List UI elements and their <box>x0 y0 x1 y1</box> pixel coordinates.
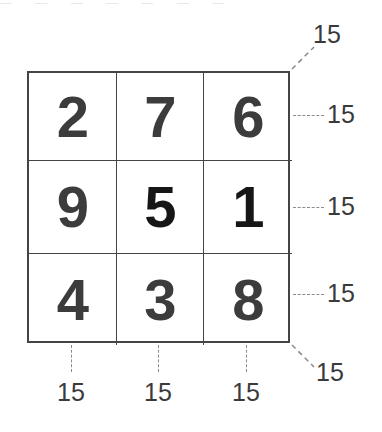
grid-cell-r2c2: 5 <box>117 161 204 254</box>
cell-value: 4 <box>57 271 88 329</box>
column-sum-leader-line-2 <box>158 345 159 372</box>
grid-cell-r2c3: 1 <box>204 161 292 254</box>
grid-cell-r3c3: 8 <box>204 254 292 345</box>
diagonal-leader-line-top-right <box>292 47 314 69</box>
cell-value: 1 <box>232 178 263 236</box>
grid-cell-r2c1: 9 <box>29 161 117 254</box>
row-sum-leader-line-3 <box>293 294 324 295</box>
cell-value: 9 <box>57 178 88 236</box>
column-sum-leader-line-1 <box>71 345 72 372</box>
magic-square-grid: 2 7 6 9 5 1 4 3 8 <box>27 71 290 343</box>
row-sum-leader-line-1 <box>293 115 324 116</box>
cell-value: 3 <box>144 271 175 329</box>
row-sum-label-3: 15 <box>327 281 355 306</box>
grid-cell-r1c3: 6 <box>204 73 292 161</box>
row-sum-label-2: 15 <box>327 194 355 219</box>
diagonal-sum-label-top-right: 15 <box>313 22 341 47</box>
grid-cell-r1c1: 2 <box>29 73 117 161</box>
cell-value: 5 <box>144 178 175 236</box>
diagonal-leader-line-bottom-right <box>292 345 314 367</box>
grid-cell-r3c1: 4 <box>29 254 117 345</box>
column-sum-label-3: 15 <box>221 380 271 405</box>
column-sum-leader-line-3 <box>246 345 247 372</box>
cell-value: 7 <box>144 88 175 146</box>
column-sum-label-1: 15 <box>46 380 96 405</box>
grid-cell-r3c2: 3 <box>117 254 204 345</box>
diagonal-sum-label-bottom-right: 15 <box>316 360 344 385</box>
cell-value: 2 <box>57 88 88 146</box>
top-edge-artifact: — — — — — — — <box>0 0 382 7</box>
grid-cell-r1c2: 7 <box>117 73 204 161</box>
cell-value: 8 <box>232 271 263 329</box>
cell-value: 6 <box>232 88 263 146</box>
column-sum-label-2: 15 <box>133 380 183 405</box>
row-sum-label-1: 15 <box>327 102 355 127</box>
row-sum-leader-line-2 <box>293 207 324 208</box>
